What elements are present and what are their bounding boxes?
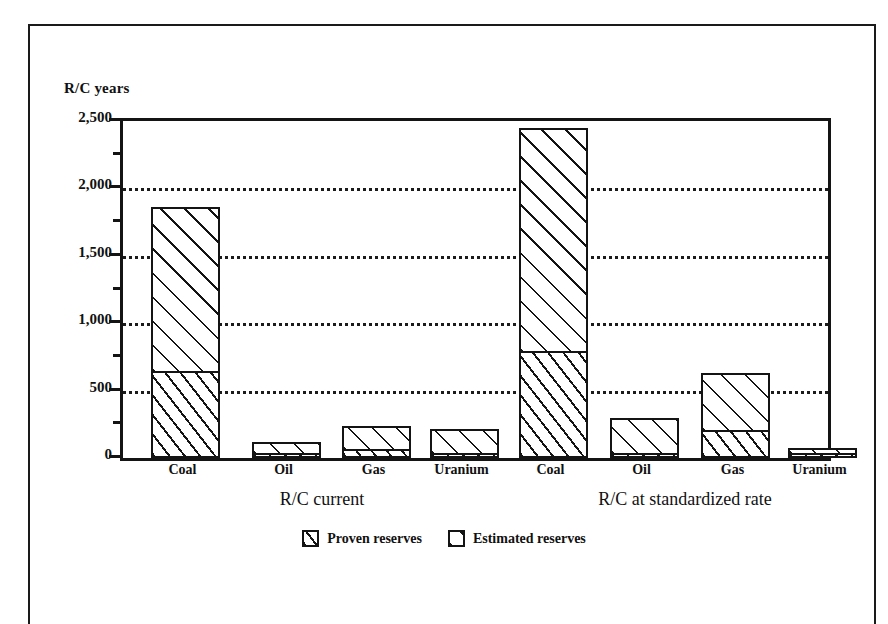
legend-item: Estimated reserves bbox=[448, 530, 586, 547]
y-axis-tick-major bbox=[109, 118, 120, 121]
y-axis-tick-minor bbox=[113, 421, 120, 424]
legend-swatch-proven bbox=[302, 530, 319, 547]
bar-segment-estimated bbox=[342, 426, 411, 451]
bar-coal bbox=[151, 207, 220, 458]
y-axis-tick-minor bbox=[113, 287, 120, 290]
y-axis-tick-minor bbox=[113, 152, 120, 155]
bar-uranium bbox=[788, 448, 857, 458]
plot-inner bbox=[123, 121, 828, 458]
bar-gas bbox=[701, 373, 770, 458]
plot-area bbox=[120, 118, 831, 461]
legend-swatch-estimated bbox=[448, 530, 465, 547]
y-axis-tick-label: 1,500 bbox=[50, 245, 112, 260]
y-axis-tick-major bbox=[109, 320, 120, 323]
y-axis-tick-major bbox=[109, 253, 120, 256]
bar-segment-estimated bbox=[701, 373, 770, 432]
bar-segment-estimated bbox=[610, 418, 679, 455]
y-axis-tick-major bbox=[109, 455, 120, 458]
bar-segment-estimated bbox=[788, 448, 857, 455]
bar-oil bbox=[252, 442, 321, 458]
bar-coal bbox=[519, 128, 588, 458]
y-axis-tick-labels: 05001,0001,5002,0002,500 bbox=[46, 118, 112, 455]
bar-segment-proven bbox=[701, 430, 770, 458]
gridline bbox=[123, 188, 828, 191]
y-axis-tick-label: 1,000 bbox=[50, 312, 112, 327]
group-label: R/C at standardized rate bbox=[515, 489, 855, 510]
gridline bbox=[123, 256, 828, 259]
category-label: Uranium bbox=[767, 462, 872, 478]
y-axis-tick-label: 0 bbox=[50, 447, 112, 462]
y-axis-title: R/C years bbox=[64, 80, 130, 97]
bar-uranium bbox=[430, 429, 499, 458]
category-label: Coal bbox=[130, 462, 235, 478]
y-axis-tick-major bbox=[109, 185, 120, 188]
group-label: R/C current bbox=[152, 489, 492, 510]
y-axis-tick-minor bbox=[113, 219, 120, 222]
category-label: Coal bbox=[498, 462, 603, 478]
y-axis-tick-label: 2,000 bbox=[50, 177, 112, 192]
bar-segment-estimated bbox=[151, 207, 220, 373]
bar-segment-proven bbox=[151, 371, 220, 458]
y-axis-tick-label: 2,500 bbox=[50, 110, 112, 125]
bar-segment-estimated bbox=[430, 429, 499, 455]
y-axis-tick-minor bbox=[113, 354, 120, 357]
legend-item: Proven reserves bbox=[302, 530, 422, 547]
y-axis-tick-label: 500 bbox=[50, 380, 112, 395]
gridline bbox=[123, 323, 828, 326]
chart-legend: Proven reservesEstimated reserves bbox=[0, 530, 888, 547]
legend-label: Estimated reserves bbox=[473, 531, 586, 547]
category-label: Oil bbox=[589, 462, 694, 478]
bar-segment-estimated bbox=[519, 128, 588, 353]
bar-segment-proven bbox=[519, 351, 588, 458]
bar-gas bbox=[342, 426, 411, 458]
legend-label: Proven reserves bbox=[327, 531, 422, 547]
y-axis-tick-major bbox=[109, 388, 120, 391]
bar-segment-estimated bbox=[252, 442, 321, 455]
bar-oil bbox=[610, 418, 679, 458]
